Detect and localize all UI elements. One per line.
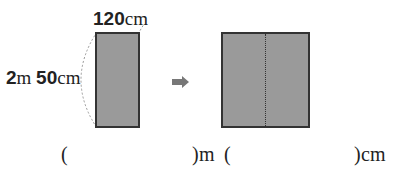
height-m-unit: m: [17, 67, 32, 88]
height-m-value: 2: [6, 67, 17, 88]
answer-open-paren-1: (: [61, 143, 68, 166]
height-cm-value: 50: [36, 67, 57, 88]
answer-blank-centimeters[interactable]: [233, 143, 350, 167]
answer-unit-cm: cm: [361, 143, 385, 166]
fold-line: [265, 34, 266, 126]
height-label: 2m 50cm: [6, 67, 80, 89]
height-cm-unit: cm: [57, 67, 80, 88]
answer-close-paren-2: ): [354, 143, 361, 166]
width-value: 120: [93, 8, 125, 29]
answer-open-paren-2: (: [224, 143, 231, 166]
answer-unit-m: m: [199, 143, 215, 166]
answer-close-paren-1: ): [192, 143, 199, 166]
arrow-right-icon: [172, 76, 190, 88]
answer-blank-meters[interactable]: [70, 143, 188, 167]
original-rectangle: [95, 32, 140, 128]
joined-rectangle: [221, 32, 310, 128]
